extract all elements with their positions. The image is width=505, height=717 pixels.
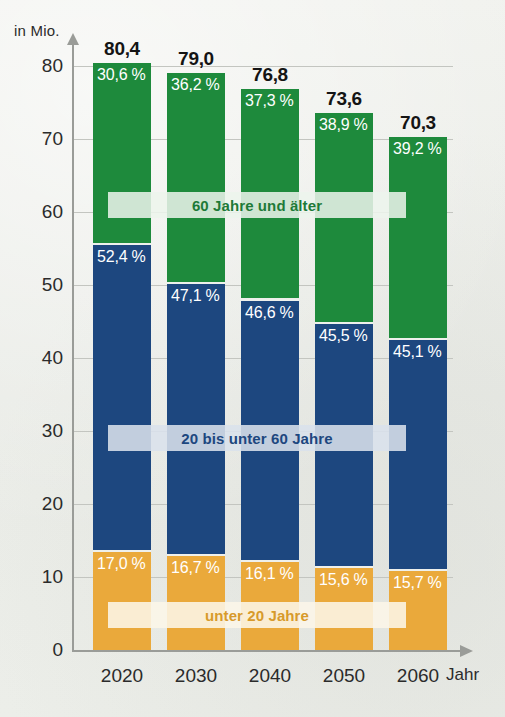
y-axis-tick-label: 30 <box>23 420 63 442</box>
bar-total-label: 70,3 <box>389 112 447 134</box>
bar-segment-percent-label: 52,4 % <box>97 248 146 266</box>
bar-stack[interactable]: 16,7 %47,1 %36,2 % <box>167 73 225 650</box>
bar-segment-percent-label: 45,1 % <box>393 343 442 361</box>
bar-segment-percent-label: 39,2 % <box>393 140 442 158</box>
y-axis-tick-label: 40 <box>23 347 63 369</box>
bar-segment-percent-label: 38,9 % <box>319 116 368 134</box>
legend-band-middle: 20 bis unter 60 Jahre <box>108 425 406 451</box>
bar-segment-middle[interactable]: 47,1 % <box>167 282 225 554</box>
bar-total-label: 73,6 <box>315 88 373 110</box>
bar-segment-older[interactable]: 36,2 % <box>167 73 225 282</box>
y-axis-tick-label: 0 <box>23 639 63 661</box>
x-axis-tick-label: 2020 <box>85 665 159 687</box>
y-axis-tick-label: 10 <box>23 566 63 588</box>
bar-segment-percent-label: 16,7 % <box>171 559 220 577</box>
y-axis-tick-label: 50 <box>23 274 63 296</box>
bar-segment-older[interactable]: 39,2 % <box>389 137 447 338</box>
bar-segment-percent-label: 15,6 % <box>319 571 368 589</box>
legend-band-young: unter 20 Jahre <box>108 602 406 628</box>
bar-segment-percent-label: 47,1 % <box>171 287 220 305</box>
population-projection-chart: in Mio. Jahr 01020304050607080 17,0 %52,… <box>0 0 505 717</box>
legend-band-older: 60 Jahre und älter <box>108 192 406 218</box>
y-axis-unit-label: in Mio. <box>14 22 60 39</box>
bar-total-label: 80,4 <box>93 38 151 60</box>
y-axis-line <box>72 44 74 652</box>
bar-segment-percent-label: 37,3 % <box>245 92 294 110</box>
bar-segment-young[interactable]: 17,0 % <box>93 550 151 650</box>
bar-segment-percent-label: 45,5 % <box>319 327 368 345</box>
bar-segment-percent-label: 46,6 % <box>245 304 294 322</box>
x-axis-tick-label: 2040 <box>233 665 307 687</box>
bar-stack[interactable]: 16,1 %46,6 %37,3 % <box>241 89 299 650</box>
legend-label-older: 60 Jahre und älter <box>192 197 322 214</box>
bar-segment-percent-label: 15,7 % <box>393 574 442 592</box>
bar-segment-percent-label: 17,0 % <box>97 555 146 573</box>
legend-label-young: unter 20 Jahre <box>205 607 309 624</box>
x-axis-line <box>72 650 462 652</box>
bar-segment-percent-label: 30,6 % <box>97 66 146 84</box>
bar-total-label: 79,0 <box>167 48 225 70</box>
bar-stack[interactable]: 17,0 %52,4 %30,6 % <box>93 63 151 650</box>
y-axis-tick-label: 60 <box>23 201 63 223</box>
bar-segment-percent-label: 16,1 % <box>245 565 294 583</box>
legend-label-middle: 20 bis unter 60 Jahre <box>181 430 332 447</box>
y-axis-tick-label: 70 <box>23 128 63 150</box>
y-axis-tick-label: 20 <box>23 493 63 515</box>
x-axis-arrow-icon <box>460 645 473 657</box>
x-axis-tick-label: 2050 <box>307 665 381 687</box>
bar-segment-middle[interactable]: 52,4 % <box>93 243 151 551</box>
bar-segment-percent-label: 36,2 % <box>171 76 220 94</box>
bar-segment-middle[interactable]: 45,1 % <box>389 338 447 569</box>
y-axis-tick-label: 80 <box>23 55 63 77</box>
x-axis-tick-label: 2060 <box>381 665 455 687</box>
bar-total-label: 76,8 <box>241 64 299 86</box>
x-axis-tick-label: 2030 <box>159 665 233 687</box>
